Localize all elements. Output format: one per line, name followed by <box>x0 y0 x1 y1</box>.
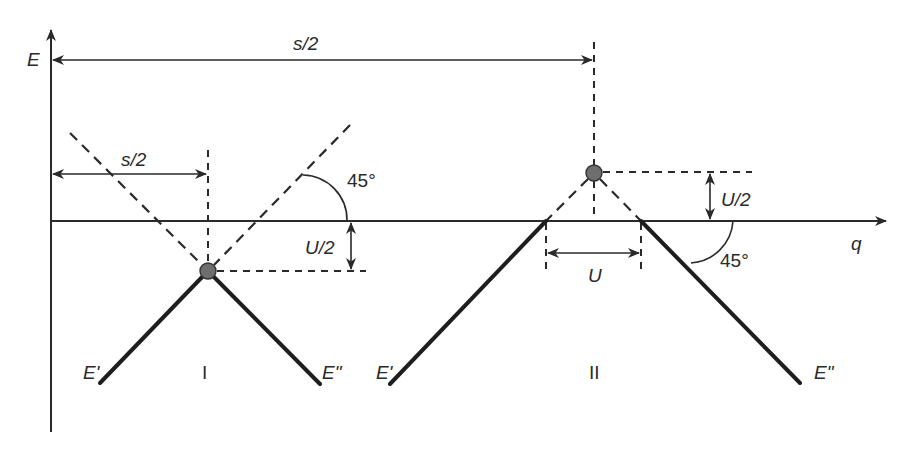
top-span-dimension: s/2 <box>53 33 592 60</box>
case-I-branch-right-label: E" <box>322 362 343 383</box>
left-angle-arc <box>303 175 347 221</box>
right-angle-label: 45° <box>720 250 749 271</box>
left-angle-label: 45° <box>347 170 376 191</box>
right-gap-label: U/2 <box>721 189 751 210</box>
right-width-label: U <box>588 265 602 286</box>
case-I-branch-left-label: E' <box>83 362 101 383</box>
energy-crossing-diagram: E q s/2 s/2 45° U/2 E' I E" <box>0 0 908 451</box>
case-II-branch-left <box>390 221 546 384</box>
case-I: s/2 45° U/2 E' I E" <box>53 125 376 384</box>
case-II: U/2 U 45° E' II E" <box>376 42 835 384</box>
case-I-branch-left <box>100 274 205 383</box>
case-I-crossing-point <box>200 263 216 279</box>
axes: E q <box>27 30 886 432</box>
case-I-branch-right <box>211 274 320 384</box>
case-II-branch-right-label: E" <box>814 362 835 383</box>
case-II-label: II <box>589 362 600 383</box>
left-span-label: s/2 <box>121 149 147 170</box>
x-axis-label: q <box>851 233 862 254</box>
case-II-point <box>586 165 602 181</box>
y-axis-label: E <box>27 49 40 70</box>
left-gap-label: U/2 <box>305 237 335 258</box>
top-span-label: s/2 <box>293 33 319 54</box>
case-I-label: I <box>202 362 207 383</box>
case-II-branch-right <box>641 221 800 383</box>
case-II-branch-left-label: E' <box>376 362 394 383</box>
